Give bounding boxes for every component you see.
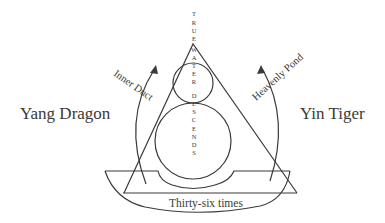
vertical-letter: S xyxy=(192,149,196,156)
vertical-letter: E xyxy=(192,125,196,132)
arrowhead-left-icon xyxy=(150,65,158,74)
vertical-letter: N xyxy=(192,133,197,140)
vertical-letter: R xyxy=(192,78,197,85)
heavenly-pond-label: Heavenly Pond xyxy=(250,51,306,103)
vertical-letter: D xyxy=(192,141,197,148)
vertical-letter: E xyxy=(192,70,196,77)
yin-tiger-label: Yin Tiger xyxy=(300,104,365,123)
thirty-six-times-label: Thirty-six times xyxy=(169,197,243,210)
vertical-letter: D xyxy=(192,92,197,99)
vertical-letter: W xyxy=(191,46,198,53)
vertical-letter: E xyxy=(192,100,196,107)
yang-dragon-label: Yang Dragon xyxy=(20,104,111,123)
arrowhead-right-icon xyxy=(257,65,265,74)
vertical-letter: A xyxy=(192,54,197,61)
vertical-letter: C xyxy=(192,116,196,123)
inner-duct-label: Inner Duct xyxy=(112,68,155,103)
vertical-letter: T xyxy=(192,10,196,17)
diagram-canvas: Yang Dragon Yin Tiger Inner Duct Heavenl… xyxy=(0,0,385,223)
vertical-letter: S xyxy=(192,108,196,115)
vertical-letter: T xyxy=(192,62,196,69)
vertical-letter: R xyxy=(192,19,197,26)
vertical-letter: E xyxy=(192,35,196,42)
vertical-text: TRUEWATERDESCENDS xyxy=(191,10,198,156)
vertical-letter: U xyxy=(192,27,197,34)
